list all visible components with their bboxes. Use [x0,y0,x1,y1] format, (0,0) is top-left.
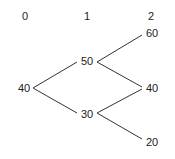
edge-down-dd [97,113,142,139]
node-t2-ud: 40 [146,82,158,94]
time-step-1: 1 [84,10,90,22]
node-t1-up: 50 [81,55,93,67]
edge-down-ud [97,89,142,113]
time-step-2: 2 [148,10,154,22]
node-t2-uu: 60 [146,27,158,39]
edge-t0-up [33,62,77,88]
edge-t0-down [33,88,77,113]
edge-up-uu [97,35,142,62]
node-t1-down: 30 [81,108,93,120]
edge-up-ud [97,62,142,87]
time-step-0: 0 [22,10,28,22]
node-t0: 40 [18,82,30,94]
node-t2-dd: 20 [146,136,158,148]
